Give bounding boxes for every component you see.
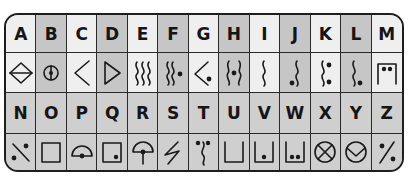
- right-triangle-icon: [97, 53, 127, 93]
- letter-cell-f: F: [158, 15, 188, 53]
- square-corner-dot-icon: [97, 134, 127, 170]
- letter-cell-j: J: [280, 15, 310, 53]
- letter-cell-m: M: [372, 15, 402, 53]
- umbrella-dot-icon: [128, 134, 158, 170]
- letter-cell-h: H: [219, 15, 249, 53]
- letter-cell-s: S: [158, 93, 188, 134]
- letter-b: B: [45, 24, 58, 44]
- letter-cell-d: D: [97, 15, 127, 53]
- letter-cell-i: I: [250, 15, 280, 53]
- letter-k: K: [319, 24, 332, 44]
- letter-cell-r: R: [128, 93, 158, 134]
- circle-v-icon: [341, 134, 371, 170]
- chevron-dot-icon: [189, 53, 219, 93]
- letter-l: L: [350, 24, 361, 44]
- letter-cell-g: G: [189, 15, 219, 53]
- letter-x: X: [319, 103, 332, 123]
- wave-top-two-dots-icon: [189, 134, 219, 170]
- letter-cell-p: P: [67, 93, 97, 134]
- letter-cell-w: W: [280, 93, 310, 134]
- open-box-two-dots-icon: [280, 134, 310, 170]
- letter-a: A: [14, 24, 27, 44]
- letter-t: T: [198, 103, 210, 123]
- letter-z: Z: [381, 103, 393, 123]
- half-circle-dot-icon: [67, 134, 97, 170]
- zigzag-icon: [158, 134, 188, 170]
- letter-q: Q: [105, 103, 119, 123]
- letter-i: I: [261, 24, 267, 44]
- letter-d: D: [105, 24, 119, 44]
- letter-r: R: [136, 103, 149, 123]
- letter-m: M: [378, 24, 395, 44]
- circle-dot-line-icon: [36, 53, 66, 93]
- letter-cell-x: X: [311, 93, 341, 134]
- letter-cell-z: Z: [372, 93, 402, 134]
- wave-bottom-dot-icon: [280, 53, 310, 93]
- letter-n: N: [14, 103, 28, 123]
- letter-cell-y: Y: [341, 93, 371, 134]
- slash-two-dots-icon: [6, 134, 36, 170]
- letter-j: J: [292, 24, 298, 44]
- letter-w: W: [285, 103, 304, 123]
- letter-cell-o: O: [36, 93, 66, 134]
- box-top-two-dots-icon: [372, 53, 402, 93]
- open-box-dot-icon: [250, 134, 280, 170]
- square-icon: [36, 134, 66, 170]
- letter-v: V: [258, 103, 271, 123]
- letter-cell-l: L: [341, 15, 371, 53]
- diamond-halved-icon: [6, 53, 36, 93]
- letter-cell-n: N: [6, 93, 36, 134]
- letter-y: Y: [350, 103, 362, 123]
- wave-two-dots-icon: [311, 53, 341, 93]
- letter-cell-v: V: [250, 93, 280, 134]
- cipher-grid: A B C D E F G H I J K L M N O P Q R S T …: [4, 13, 404, 172]
- letter-cell-q: Q: [97, 93, 127, 134]
- letter-u: U: [227, 103, 241, 123]
- letter-cell-u: U: [219, 93, 249, 134]
- letter-cell-c: C: [67, 15, 97, 53]
- letter-g: G: [197, 24, 211, 44]
- letter-cell-b: B: [36, 15, 66, 53]
- three-waves-icon: [128, 53, 158, 93]
- letter-cell-t: T: [189, 93, 219, 134]
- percent-icon: [372, 134, 402, 170]
- single-wave-icon: [250, 53, 280, 93]
- waves-pair-center-dot-icon: [219, 53, 249, 93]
- letter-cell-e: E: [128, 15, 158, 53]
- circle-x-icon: [311, 134, 341, 170]
- letter-c: C: [75, 24, 87, 44]
- letter-p: P: [75, 103, 87, 123]
- letter-cell-k: K: [311, 15, 341, 53]
- letter-f: F: [167, 24, 179, 44]
- letter-e: E: [137, 24, 149, 44]
- letter-cell-a: A: [6, 15, 36, 53]
- letter-s: S: [167, 103, 179, 123]
- left-chevron-icon: [67, 53, 97, 93]
- wave-bottom-dot-alt-icon: [341, 53, 371, 93]
- two-waves-dot-icon: [158, 53, 188, 93]
- open-box-icon: [219, 134, 249, 170]
- letter-o: O: [44, 103, 58, 123]
- letter-h: H: [227, 24, 241, 44]
